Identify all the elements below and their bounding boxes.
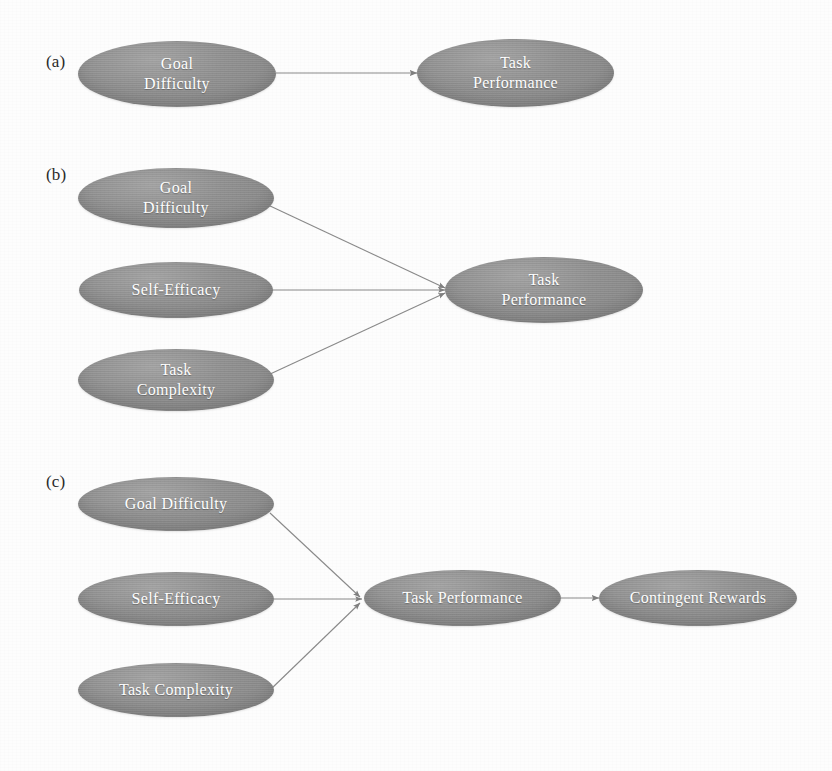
node-label: Contingent Rewards [630, 588, 767, 608]
panel-label-c: (c) [46, 472, 65, 492]
edge-b-goal-difficulty-to-task-performance [268, 205, 445, 288]
node-goal-difficulty-panel-c: Goal Difficulty [78, 477, 274, 531]
node-goal-difficulty-panel-b: Goal Difficulty [78, 168, 274, 228]
node-label: Task Complexity [119, 680, 233, 700]
edge-c-task-complexity-to-task-performance [270, 603, 360, 690]
node-label: Goal Difficulty [125, 494, 227, 514]
node-task-performance-panel-a: Task Performance [417, 39, 614, 107]
path-diagram-figure: (a) Goal Difficulty Task Performance (b)… [0, 0, 832, 771]
node-task-performance-panel-c: Task Performance [364, 570, 561, 626]
panel-label-a: (a) [46, 52, 65, 72]
panel-label-b: (b) [46, 165, 66, 185]
node-label: Goal Difficulty [144, 54, 210, 93]
node-self-efficacy-panel-c: Self-Efficacy [78, 572, 274, 626]
edge-c-goal-difficulty-to-task-performance [270, 513, 360, 597]
node-goal-difficulty-panel-a: Goal Difficulty [78, 41, 276, 107]
node-label: Goal Difficulty [143, 178, 209, 217]
node-label: Task Complexity [137, 360, 216, 399]
node-label: Task Performance [473, 53, 558, 92]
node-self-efficacy-panel-b: Self-Efficacy [79, 262, 273, 318]
node-label: Self-Efficacy [132, 589, 221, 609]
node-task-complexity-panel-b: Task Complexity [78, 349, 274, 411]
node-task-performance-panel-b: Task Performance [445, 257, 643, 323]
node-task-complexity-panel-c: Task Complexity [78, 663, 274, 717]
node-contingent-rewards-panel-c: Contingent Rewards [599, 570, 797, 626]
node-label: Self-Efficacy [132, 280, 221, 300]
edge-b-task-complexity-to-task-performance [268, 293, 445, 375]
node-label: Task Performance [402, 588, 523, 608]
node-label: Task Performance [501, 270, 586, 309]
